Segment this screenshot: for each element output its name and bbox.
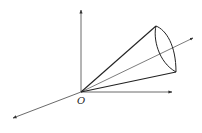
cone-edge-lower bbox=[81, 72, 176, 92]
cone-edge-upper bbox=[81, 26, 156, 92]
depth-axis-negative bbox=[13, 92, 81, 118]
cone-diagram bbox=[0, 0, 202, 133]
cone-base-front bbox=[156, 26, 176, 72]
origin-label: O bbox=[77, 96, 85, 106]
